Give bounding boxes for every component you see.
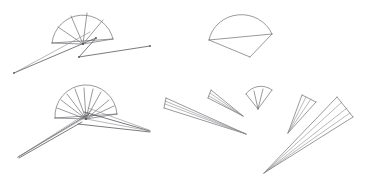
rib-end-dot: [95, 37, 97, 39]
fan-shapes-drawing: [0, 0, 366, 181]
rib-end-dot: [78, 56, 80, 58]
sketch-canvas: [0, 0, 366, 181]
rib-end-dot: [13, 72, 15, 74]
pivot-dot: [82, 43, 84, 45]
rib-end-dot: [149, 45, 151, 47]
pivot-dot: [85, 118, 87, 120]
canvas-background: [0, 0, 366, 181]
